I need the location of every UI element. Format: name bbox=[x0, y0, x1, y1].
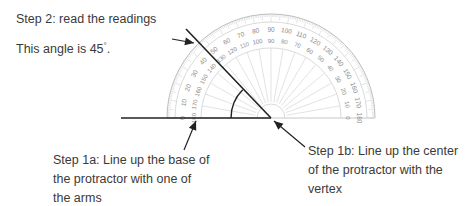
outer-scale-label: 100 bbox=[280, 26, 292, 35]
tick-mark bbox=[169, 98, 172, 99]
tick-mark bbox=[232, 22, 233, 25]
tick-mark bbox=[326, 31, 328, 34]
tick-mark bbox=[170, 95, 173, 96]
tick-mark bbox=[249, 16, 250, 19]
tick-mark bbox=[242, 18, 243, 21]
outer-scale-label: 80 bbox=[251, 26, 260, 34]
radial-line bbox=[286, 94, 337, 112]
tick-mark bbox=[318, 26, 319, 29]
tick-mark bbox=[353, 57, 355, 59]
tick-mark bbox=[203, 40, 205, 42]
radial-line bbox=[259, 49, 268, 102]
tick-mark bbox=[290, 16, 291, 19]
outer-scale-label: 70 bbox=[236, 30, 246, 39]
tick-mark bbox=[309, 22, 310, 25]
tick-mark bbox=[187, 57, 189, 59]
outer-scale-label: 60 bbox=[222, 36, 232, 46]
tick-mark bbox=[333, 36, 335, 38]
tick-mark bbox=[219, 28, 223, 35]
tick-mark bbox=[248, 17, 249, 20]
tick-mark bbox=[295, 17, 296, 20]
tick-mark bbox=[351, 54, 353, 56]
inner-scale-label: 30 bbox=[334, 75, 343, 84]
tick-mark bbox=[213, 32, 215, 34]
tick-mark bbox=[345, 51, 351, 56]
angle-arc bbox=[231, 90, 243, 118]
tick-mark bbox=[216, 30, 218, 33]
tick-mark bbox=[167, 109, 173, 110]
tick-mark bbox=[175, 79, 178, 80]
tick-mark bbox=[172, 88, 175, 89]
tick-mark bbox=[234, 21, 235, 24]
radial-line bbox=[287, 106, 340, 115]
inner-scale-label: 50 bbox=[316, 54, 325, 63]
inner-scale-label: 80 bbox=[281, 38, 289, 45]
tick-mark bbox=[190, 53, 192, 55]
tick-mark bbox=[206, 37, 208, 39]
radial-line bbox=[276, 52, 294, 103]
tick-mark bbox=[214, 31, 216, 34]
tick-mark bbox=[368, 89, 371, 90]
inner-scale-label: 20 bbox=[340, 87, 348, 96]
inner-scale-label: 0 bbox=[345, 116, 351, 120]
tick-mark bbox=[174, 81, 177, 82]
tick-mark bbox=[362, 72, 365, 73]
tick-mark bbox=[325, 30, 327, 33]
radial-line bbox=[202, 106, 255, 115]
tick-mark bbox=[364, 77, 367, 78]
tick-mark bbox=[169, 100, 177, 101]
outer-scale-label: 20 bbox=[183, 83, 192, 93]
tick-mark bbox=[370, 96, 373, 97]
tick-mark bbox=[330, 34, 332, 36]
tick-mark bbox=[244, 18, 246, 24]
tick-mark bbox=[340, 44, 344, 48]
inner-scale-label: 150 bbox=[199, 73, 210, 85]
tick-mark bbox=[229, 23, 230, 26]
tick-mark bbox=[359, 68, 362, 69]
inner-scale-label: 110 bbox=[239, 41, 251, 50]
tick-mark bbox=[345, 47, 347, 49]
tick-mark bbox=[358, 64, 361, 66]
step1a-line-1: Step 1a: Line up the base of bbox=[53, 151, 213, 170]
outer-scale-label: 10 bbox=[179, 98, 187, 107]
tick-mark bbox=[246, 17, 247, 20]
tick-mark bbox=[312, 23, 313, 26]
tick-mark bbox=[221, 27, 222, 30]
outer-scale-label: 30 bbox=[189, 68, 199, 78]
inner-scale-label: 100 bbox=[252, 38, 264, 46]
tick-mark bbox=[188, 55, 190, 57]
outer-scale-label: 120 bbox=[309, 35, 322, 47]
radial-line bbox=[205, 94, 256, 112]
tick-mark bbox=[361, 71, 364, 72]
tick-mark bbox=[323, 29, 325, 32]
tick-mark bbox=[251, 16, 252, 19]
tick-mark bbox=[360, 69, 363, 70]
tick-mark bbox=[171, 91, 177, 93]
step2-arrow-head-icon bbox=[184, 37, 194, 45]
tick-mark bbox=[237, 20, 238, 23]
outer-scale-label: 140 bbox=[333, 55, 346, 68]
tick-mark bbox=[171, 89, 174, 90]
tick-mark bbox=[340, 42, 342, 44]
outer-scale-label: 130 bbox=[322, 44, 335, 57]
tick-mark bbox=[176, 76, 179, 77]
tick-mark bbox=[241, 19, 242, 22]
tick-mark bbox=[366, 100, 374, 101]
tick-mark bbox=[307, 21, 308, 24]
tick-mark bbox=[357, 63, 360, 65]
tick-mark bbox=[356, 61, 359, 63]
inner-scale-label: 70 bbox=[293, 41, 302, 49]
tick-mark bbox=[224, 25, 225, 28]
tick-mark bbox=[370, 98, 373, 99]
tick-mark bbox=[170, 93, 173, 94]
tick-mark bbox=[179, 69, 182, 70]
radial-line bbox=[274, 49, 283, 102]
tick-mark bbox=[292, 16, 293, 19]
tick-mark bbox=[369, 93, 372, 94]
outer-scale-label: 170 bbox=[354, 97, 363, 109]
tick-mark bbox=[185, 60, 187, 62]
tick-mark bbox=[180, 68, 183, 69]
tick-mark bbox=[299, 18, 300, 21]
tick-mark bbox=[262, 14, 263, 20]
outer-scale-label: 150 bbox=[342, 67, 354, 80]
